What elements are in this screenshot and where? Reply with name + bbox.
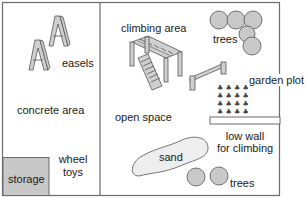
label-garden-plot: garden plot xyxy=(249,74,304,86)
label-wheel-toys-line1: wheel xyxy=(58,153,88,165)
label-concrete-area: concrete area xyxy=(17,104,84,116)
label-low-wall-line1: low wall xyxy=(210,130,280,142)
low-wall-icon xyxy=(210,117,280,124)
plant-icon: ♣ ♣ ♣ ♣ ♣ ♣ ♣ ♣ ♣ ♣ ♣ ♣ ♣ ♣ ♣ ♣ xyxy=(217,84,249,116)
label-climbing-area: climbing area xyxy=(121,22,186,34)
svg-text:♣ ♣ ♣ ♣: ♣ ♣ ♣ ♣ xyxy=(217,92,249,100)
svg-text:♣ ♣ ♣ ♣: ♣ ♣ ♣ ♣ xyxy=(217,108,249,116)
playground-diagram: ♣ ♣ ♣ ♣ ♣ ♣ ♣ ♣ ♣ ♣ ♣ ♣ ♣ ♣ ♣ ♣ easels c… xyxy=(0,0,306,198)
svg-text:♣ ♣ ♣ ♣: ♣ ♣ ♣ ♣ xyxy=(217,100,249,108)
climbing-frame-icon xyxy=(130,36,182,90)
label-trees-bottom: trees xyxy=(230,177,254,189)
label-storage: storage xyxy=(8,173,45,185)
label-low-wall-line2: for climbing xyxy=(210,142,280,154)
label-trees-top: trees xyxy=(213,33,237,45)
label-open-space: open space xyxy=(115,111,172,123)
svg-text:♣ ♣ ♣ ♣: ♣ ♣ ♣ ♣ xyxy=(217,84,249,92)
label-easels: easels xyxy=(62,57,94,69)
label-wheel-toys-line2: toys xyxy=(58,166,88,178)
tree-icon xyxy=(187,167,228,186)
label-sand: sand xyxy=(159,151,183,163)
